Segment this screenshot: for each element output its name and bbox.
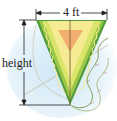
arrow-up-icon — [22, 20, 26, 25]
height-label: height — [2, 57, 32, 69]
arrow-left-icon — [36, 11, 41, 15]
width-label: 4 ft — [61, 6, 81, 18]
arrow-right-icon — [102, 11, 107, 15]
kite-diagram: 4 ft height — [0, 0, 117, 121]
